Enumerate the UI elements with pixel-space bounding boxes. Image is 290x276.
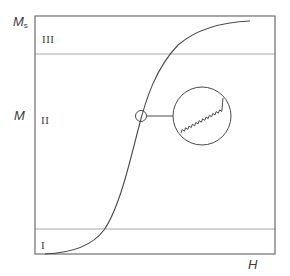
y-axis-label: M — [14, 108, 25, 123]
ms-subscript: s — [24, 21, 28, 30]
magnetization-curve — [45, 21, 250, 254]
ms-main: M — [13, 14, 24, 29]
region-label-2: II — [41, 114, 49, 126]
y-axis-max-label: Ms — [13, 14, 28, 29]
plot-frame — [35, 16, 275, 254]
x-axis-label: H — [248, 257, 257, 272]
region-label-1: I — [41, 239, 45, 251]
zigzag-spring-icon — [181, 98, 223, 133]
magnified-inset-circle — [173, 87, 231, 145]
region-label-3: III — [42, 33, 55, 45]
